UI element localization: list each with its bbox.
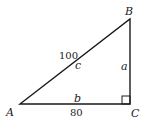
side-b-label: b xyxy=(74,92,81,105)
side-b-value: 80 xyxy=(70,107,83,118)
vertex-label-c: C xyxy=(131,107,140,120)
right-angle-marker xyxy=(122,96,130,104)
vertex-label-a: A xyxy=(5,106,14,119)
vertex-label-b: B xyxy=(124,5,133,18)
side-c-label: c xyxy=(75,59,81,72)
side-a-label: a xyxy=(121,60,128,73)
right-triangle-diagram: B A C 100 c a b 80 xyxy=(0,0,146,122)
